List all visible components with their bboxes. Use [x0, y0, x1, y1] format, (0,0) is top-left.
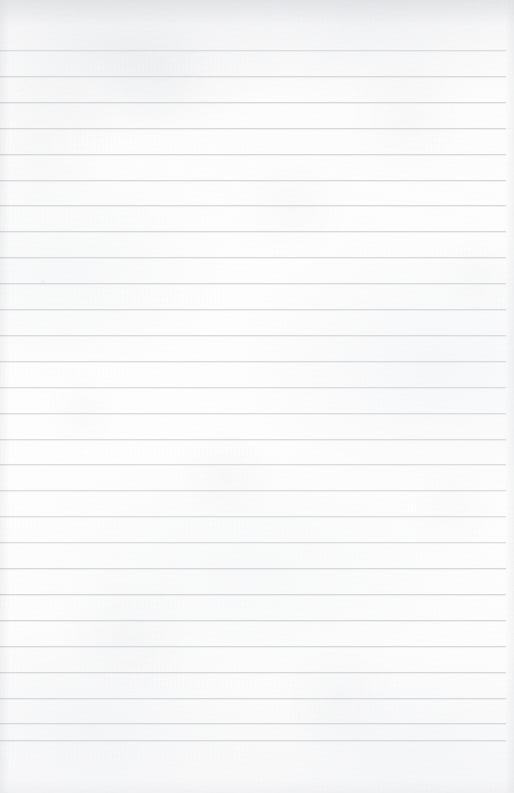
scanned-page — [0, 0, 514, 793]
page-body-text — [0, 0, 514, 793]
